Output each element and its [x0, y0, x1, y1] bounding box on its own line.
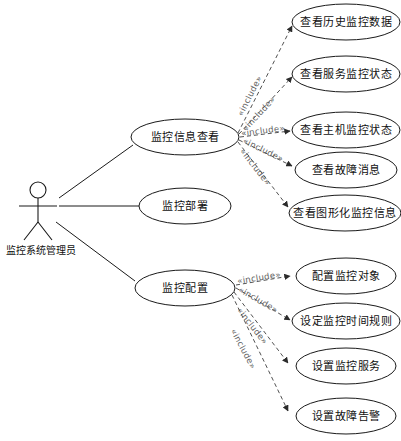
use-case-monitoring-info-view[interactable]: 监控信息查看 [131, 119, 239, 155]
actor-legs-icon [24, 222, 52, 240]
use-case-label: 查看故障消息 [312, 163, 381, 177]
use-case-monitoring-deployment[interactable]: 监控部署 [139, 188, 231, 224]
use-case-label: 设置监控服务 [312, 359, 381, 373]
use-case-view-graphical-info[interactable]: 查看图形化监控信息 [289, 195, 401, 231]
association-actor-to-view [59, 145, 133, 198]
include-labels-view-group: «include» «include» «include» «include» … [235, 74, 285, 187]
use-case-label: 查看历史监控数据 [300, 15, 392, 29]
use-case-label: 设置故障告警 [312, 409, 381, 423]
use-case-label: 监控配置 [162, 281, 208, 295]
actor-head-icon [30, 182, 46, 198]
include-labels-config-group: «include» «include» «include» «include» [229, 269, 282, 370]
use-case-label: 查看服务监控状态 [300, 67, 392, 81]
use-case-config-time-rule[interactable]: 设定监控时间规则 [292, 303, 400, 339]
use-case-view-service-status[interactable]: 查看服务监控状态 [292, 56, 400, 92]
use-case-label: 监控信息查看 [151, 130, 220, 144]
use-case-label: 查看图形化监控信息 [293, 206, 397, 220]
use-case-label: 查看主机监控状态 [300, 123, 392, 137]
use-case-view-fault-message[interactable]: 查看故障消息 [295, 152, 397, 188]
use-case-config-fault-alarm[interactable]: 设置故障告警 [296, 398, 396, 434]
actor-label: 监控系统管理员 [6, 244, 76, 256]
use-case-label: 配置监控对象 [312, 269, 381, 283]
association-lines-group [56, 145, 139, 281]
use-case-view-host-status[interactable]: 查看主机监控状态 [292, 112, 400, 148]
include-label: «include» [236, 269, 281, 286]
include-line-view-history [238, 26, 292, 133]
use-case-diagram-canvas: 监控系统管理员 监控信息查看 监控部署 监控配置 «include» «incl… [0, 0, 401, 441]
use-case-config-target[interactable]: 配置监控对象 [296, 258, 396, 294]
use-case-label: 设定监控时间规则 [300, 314, 392, 328]
use-case-config-service[interactable]: 设置监控服务 [296, 348, 396, 384]
use-case-label: 监控部署 [162, 199, 208, 213]
use-case-view-history[interactable]: 查看历史监控数据 [292, 4, 400, 40]
use-case-monitoring-configuration[interactable]: 监控配置 [135, 270, 235, 306]
